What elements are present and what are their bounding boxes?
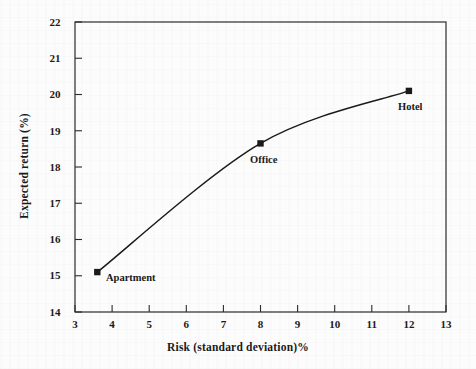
y-tick-20: 20 [42,88,68,100]
chart-page: 22 21 20 19 18 17 16 15 14 3 4 5 6 7 8 9… [0,0,476,369]
marker-apartment [94,269,100,275]
y-tick-22: 22 [42,16,68,28]
x-tick-7: 7 [210,318,236,330]
y-tick-17: 17 [42,197,68,209]
y-tick-18: 18 [42,161,68,173]
y-tick-21: 21 [42,52,68,64]
x-tick-12: 12 [396,318,422,330]
risk-return-plot [0,0,476,369]
x-tick-10: 10 [322,318,348,330]
y-tick-15: 15 [42,269,68,281]
data-point-markers [94,88,412,276]
x-tick-9: 9 [285,318,311,330]
y-tick-19: 19 [42,125,68,137]
plot-frame [75,22,446,312]
x-tick-8: 8 [248,318,274,330]
y-tick-14: 14 [42,306,68,318]
y-axis-title: Expected return (%) [18,56,30,276]
x-tick-3: 3 [62,318,88,330]
x-tick-6: 6 [173,318,199,330]
x-tick-5: 5 [136,318,162,330]
marker-hotel [406,88,412,94]
x-axis-ticks [75,305,446,312]
point-label-hotel: Hotel [398,101,423,112]
point-label-apartment: Apartment [106,272,156,283]
x-axis-title: Risk (standard deviation)% [0,341,476,353]
y-axis-ticks [75,22,82,312]
risk-return-curve [97,91,409,272]
x-tick-4: 4 [99,318,125,330]
x-tick-13: 13 [433,318,459,330]
y-tick-16: 16 [42,233,68,245]
x-tick-11: 11 [359,318,385,330]
point-label-office: Office [250,154,277,165]
marker-office [257,140,263,146]
